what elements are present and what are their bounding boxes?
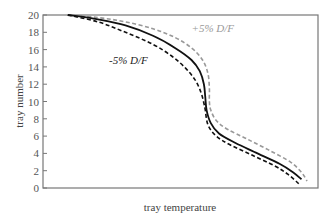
annotation-plus-5-df: +5% D/F: [192, 22, 235, 34]
annotation-layer: +5% D/F-5% D/F: [109, 22, 234, 66]
y-tick-label: 18: [28, 26, 40, 38]
y-tick-label: 12: [28, 78, 39, 90]
series-layer: [68, 15, 307, 184]
y-tick-label: 10: [28, 96, 40, 108]
y-tick-label: 20: [28, 9, 40, 21]
chart-canvas: 02468101214161820 +5% D/F-5% D/F tray te…: [0, 0, 333, 218]
y-tick-label: 14: [28, 61, 40, 73]
y-axis-title: tray number: [13, 74, 25, 128]
series-line-nominal: [68, 15, 302, 179]
y-tick-label: 0: [34, 182, 40, 194]
y-tick-label: 4: [34, 147, 40, 159]
x-axis-title: tray temperature: [144, 201, 216, 213]
y-axis-ticks: 02468101214161820: [28, 9, 47, 194]
y-tick-label: 2: [34, 165, 40, 177]
annotation-minus-5-df: -5% D/F: [109, 54, 148, 66]
series-line-5-d-f: [68, 15, 307, 181]
y-tick-label: 16: [28, 44, 40, 56]
y-tick-label: 6: [34, 130, 40, 142]
y-tick-label: 8: [34, 113, 40, 125]
series-line-5-d-f: [68, 15, 299, 184]
